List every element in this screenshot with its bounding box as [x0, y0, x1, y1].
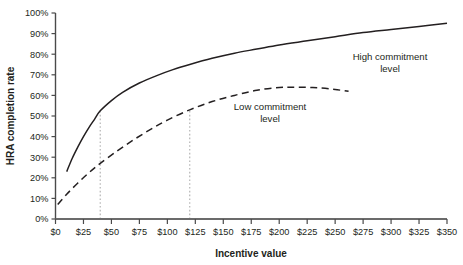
x-tick-label: $125	[185, 227, 205, 237]
x-tick-label: $25	[76, 227, 91, 237]
y-tick-label: 10%	[30, 194, 48, 204]
y-tick-label: 100%	[25, 8, 49, 18]
x-tick-label: $225	[297, 227, 317, 237]
x-tick-label: $100	[157, 227, 177, 237]
y-tick-label: 80%	[30, 50, 48, 60]
y-tick-label: 60%	[30, 91, 48, 101]
series-label-low-commitment: Low commitment	[234, 101, 307, 112]
y-tick-label: 40%	[30, 132, 48, 142]
x-tick-label: $275	[353, 227, 373, 237]
x-tick-label: $75	[132, 227, 147, 237]
x-tick-label: $325	[409, 227, 429, 237]
y-axis-title: HRA completion rate	[5, 66, 16, 165]
y-tick-label: 0%	[35, 214, 48, 224]
y-tick-label: 30%	[30, 153, 48, 163]
x-tick-label: $250	[325, 227, 345, 237]
axes-group	[52, 13, 448, 224]
chart-container: 0%10%20%30%40%50%60%70%80%90%100%$0$25$5…	[0, 0, 463, 265]
series-line-high-commitment	[67, 23, 447, 171]
series-label-low-commitment: level	[260, 113, 280, 124]
series-label-high-commitment: level	[380, 63, 400, 74]
labels-group: 0%10%20%30%40%50%60%70%80%90%100%$0$25$5…	[25, 8, 457, 237]
x-axis-title: Incentive value	[215, 248, 287, 259]
x-tick-label: $150	[213, 227, 233, 237]
x-tick-label: $0	[50, 227, 60, 237]
x-tick-label: $50	[104, 227, 119, 237]
series-label-high-commitment: High commitment	[353, 51, 428, 62]
y-tick-label: 70%	[30, 70, 48, 80]
reference-lines-group	[100, 110, 189, 219]
hra-completion-chart: 0%10%20%30%40%50%60%70%80%90%100%$0$25$5…	[0, 0, 463, 265]
y-tick-label: 50%	[30, 111, 48, 121]
x-tick-label: $175	[241, 227, 261, 237]
y-tick-label: 90%	[30, 29, 48, 39]
x-tick-label: $200	[269, 227, 289, 237]
y-tick-label: 20%	[30, 173, 48, 183]
x-tick-label: $350	[437, 227, 457, 237]
x-tick-label: $300	[381, 227, 401, 237]
